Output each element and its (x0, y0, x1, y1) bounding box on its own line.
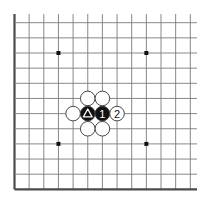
move-number-label: 2 (114, 108, 120, 120)
white-stone-body (66, 106, 81, 121)
move-number-label: 1 (99, 108, 105, 120)
white-stone-body (95, 121, 110, 136)
star-point (144, 51, 148, 55)
white-stone (95, 91, 110, 106)
go-board: 12 (0, 0, 210, 203)
white-stone (66, 106, 81, 121)
star-point (56, 51, 60, 55)
white-stone-body (95, 91, 110, 106)
white-stone (80, 121, 95, 136)
white-stone (95, 121, 110, 136)
black-stone (80, 106, 95, 121)
white-stone (80, 91, 95, 106)
black-stone: 1 (95, 106, 110, 121)
star-point (144, 142, 148, 146)
white-stone-body (80, 121, 95, 136)
white-stone: 2 (110, 106, 125, 121)
star-point (56, 142, 60, 146)
stones-layer: 12 (66, 91, 125, 136)
white-stone-body (80, 91, 95, 106)
